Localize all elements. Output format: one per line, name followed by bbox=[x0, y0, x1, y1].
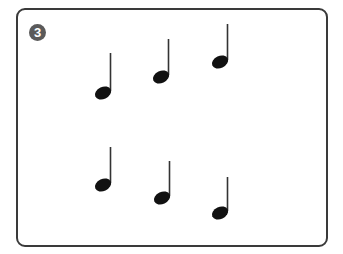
notes-canvas bbox=[0, 0, 343, 254]
quarter-note-icon bbox=[152, 161, 172, 207]
quarter-note-icon bbox=[151, 39, 171, 86]
quarter-note-icon bbox=[210, 177, 230, 222]
quarter-note-icon bbox=[93, 147, 113, 194]
quarter-note-icon bbox=[210, 24, 230, 71]
quarter-note-icon bbox=[93, 53, 113, 102]
